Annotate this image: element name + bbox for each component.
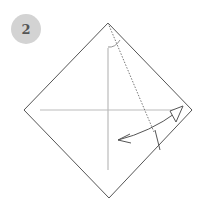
fold-arrow-head-hollow-icon — [170, 106, 183, 122]
dotted-fold-line — [108, 23, 154, 132]
origami-diagram — [0, 0, 205, 203]
